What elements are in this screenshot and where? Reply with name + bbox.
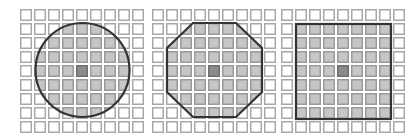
pixel-cell <box>296 10 307 21</box>
pixel-cell <box>209 10 220 21</box>
pixel-cell <box>153 38 164 49</box>
pixel-cell <box>77 10 88 21</box>
neighborhood-shapes-diagram <box>0 0 420 140</box>
pixel-cell <box>394 108 405 119</box>
pixel-cell <box>282 24 293 35</box>
pixel-cell <box>265 52 276 63</box>
pixel-cell <box>282 66 293 77</box>
pixel-cell <box>167 24 178 35</box>
pixel-cell <box>223 122 234 133</box>
pixel-cell <box>394 122 405 133</box>
pixel-cell <box>282 122 293 133</box>
pixel-cell <box>251 108 262 119</box>
pixel-cell <box>153 66 164 77</box>
pixel-cell <box>310 122 321 133</box>
pixel-cell <box>35 24 46 35</box>
pixel-cell <box>195 122 206 133</box>
pixel-cell <box>394 66 405 77</box>
pixel-cell <box>282 108 293 119</box>
pixel-cell <box>352 10 363 21</box>
pixel-cell <box>296 122 307 133</box>
pixel-cell <box>119 24 130 35</box>
pixel-cell <box>394 94 405 105</box>
pixel-cell <box>209 122 220 133</box>
pixel-cell <box>181 122 192 133</box>
pixel-cell <box>380 122 391 133</box>
pixel-cell <box>21 52 32 63</box>
pixel-cell <box>119 10 130 21</box>
pixel-cell <box>282 80 293 91</box>
pixel-cell <box>153 80 164 91</box>
pixel-cell <box>49 10 60 21</box>
pixel-cell <box>265 38 276 49</box>
pixel-cell <box>21 24 32 35</box>
center-pixel <box>338 66 349 77</box>
pixel-cell <box>21 66 32 77</box>
pixel-cell <box>119 108 130 119</box>
pixel-cell <box>133 66 144 77</box>
pixel-cell <box>105 122 116 133</box>
pixel-cell <box>251 24 262 35</box>
pixel-cell <box>195 10 206 21</box>
pixel-cell <box>77 122 88 133</box>
center-pixel <box>77 66 88 77</box>
pixel-cell <box>237 122 248 133</box>
pixel-cell <box>49 122 60 133</box>
pixel-cell <box>153 122 164 133</box>
pixel-cell <box>153 94 164 105</box>
pixel-cell <box>21 94 32 105</box>
pixel-cell <box>35 10 46 21</box>
pixel-cell <box>251 10 262 21</box>
pixel-cell <box>21 10 32 21</box>
pixel-cell <box>167 10 178 21</box>
pixel-cell <box>133 122 144 133</box>
pixel-cell <box>366 122 377 133</box>
pixel-cell <box>181 10 192 21</box>
pixel-cell <box>366 10 377 21</box>
pixel-cell <box>338 122 349 133</box>
pixel-cell <box>394 80 405 91</box>
pixel-cell <box>167 108 178 119</box>
pixel-cell <box>63 122 74 133</box>
pixel-cell <box>265 94 276 105</box>
panel-circle <box>21 10 144 133</box>
pixel-cell <box>133 108 144 119</box>
pixel-cell <box>310 10 321 21</box>
pixel-cell <box>133 10 144 21</box>
pixel-cell <box>265 122 276 133</box>
pixel-cell <box>282 52 293 63</box>
pixel-cell <box>153 52 164 63</box>
pixel-cell <box>237 10 248 21</box>
pixel-cell <box>251 122 262 133</box>
pixel-cell <box>21 80 32 91</box>
pixel-cell <box>265 80 276 91</box>
pixel-cell <box>35 108 46 119</box>
pixel-cell <box>265 108 276 119</box>
pixel-cell <box>35 122 46 133</box>
pixel-cell <box>282 10 293 21</box>
center-pixel <box>209 66 220 77</box>
pixel-cell <box>352 122 363 133</box>
pixel-cell <box>133 52 144 63</box>
panel-octagon <box>153 10 276 133</box>
pixel-cell <box>133 24 144 35</box>
pixel-cell <box>153 10 164 21</box>
pixel-cell <box>21 108 32 119</box>
pixel-cell <box>282 38 293 49</box>
pixel-cell <box>153 108 164 119</box>
pixel-cell <box>223 10 234 21</box>
pixel-cell <box>338 10 349 21</box>
pixel-cell <box>265 66 276 77</box>
pixel-cell <box>265 10 276 21</box>
pixel-cell <box>394 52 405 63</box>
pixel-cell <box>105 10 116 21</box>
pixel-cell <box>394 24 405 35</box>
pixel-cell <box>133 94 144 105</box>
pixel-cell <box>324 122 335 133</box>
pixel-cell <box>21 38 32 49</box>
pixel-cell <box>91 10 102 21</box>
pixel-cell <box>91 122 102 133</box>
pixel-cell <box>153 24 164 35</box>
pixel-cell <box>324 10 335 21</box>
pixel-cell <box>380 10 391 21</box>
